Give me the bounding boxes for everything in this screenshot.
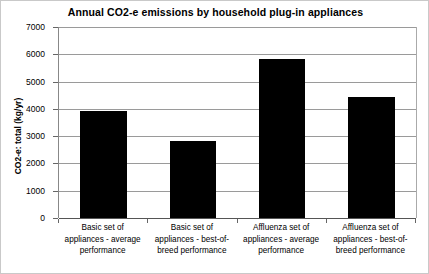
x-axis-category-line: appliances - best-of- [327, 234, 414, 246]
chart-title: Annual CO2-e emissions by household plug… [1, 6, 429, 18]
x-axis-category-label: Affluenza set ofappliances - averageperf… [237, 222, 326, 270]
y-axis-tick-label: 2000 [1, 158, 45, 168]
x-axis-category-line: Basic set of [148, 222, 235, 234]
x-axis-tick-mark [147, 219, 148, 223]
x-axis-category-line: appliances - average [238, 234, 325, 246]
x-axis-tick-mark [58, 219, 59, 223]
x-axis-category-line: performance [238, 245, 325, 257]
x-axis-category-line: Affluenza set of [327, 222, 414, 234]
x-axis-tick-mark [237, 219, 238, 223]
y-axis-tick-label: 6000 [1, 49, 45, 59]
x-axis: Basic set ofappliances - averageperforma… [58, 222, 415, 270]
x-axis-category-line: breed performance [327, 245, 414, 257]
y-axis-tick-label: 7000 [1, 22, 45, 32]
x-axis-tick-mark [415, 219, 416, 223]
gridline [59, 82, 416, 83]
gridline [59, 218, 416, 219]
x-axis-category-line: Affluenza set of [238, 222, 325, 234]
x-axis-category-line: breed performance [148, 245, 235, 257]
y-axis-tick-label: 5000 [1, 77, 45, 87]
x-axis-category-label: Basic set ofappliances - averageperforma… [58, 222, 147, 270]
x-axis-category-line: Basic set of [59, 222, 146, 234]
bar [170, 141, 216, 218]
x-axis-category-label: Affluenza set ofappliances - best-of-bre… [326, 222, 415, 270]
y-axis-tick-label: 4000 [1, 104, 45, 114]
x-axis-category-line: performance [59, 245, 146, 257]
gridline [59, 27, 416, 28]
bar-chart: Annual CO2-e emissions by household plug… [0, 0, 429, 274]
x-axis-category-label: Basic set ofappliances - best-of-breed p… [147, 222, 236, 270]
y-axis: CO2-e: total (kg/yr) 7000600050004000300… [1, 27, 53, 218]
y-axis-tick-label: 1000 [1, 186, 45, 196]
x-axis-category-line: appliances - best-of- [148, 234, 235, 246]
y-axis-tick-label: 0 [1, 213, 45, 223]
x-axis-category-line: appliances - average [59, 234, 146, 246]
y-axis-tick-label: 3000 [1, 131, 45, 141]
bar [259, 59, 305, 218]
bar [348, 97, 394, 218]
plot-area [58, 27, 417, 218]
gridline [59, 54, 416, 55]
bar [80, 111, 126, 218]
x-axis-tick-mark [326, 219, 327, 223]
